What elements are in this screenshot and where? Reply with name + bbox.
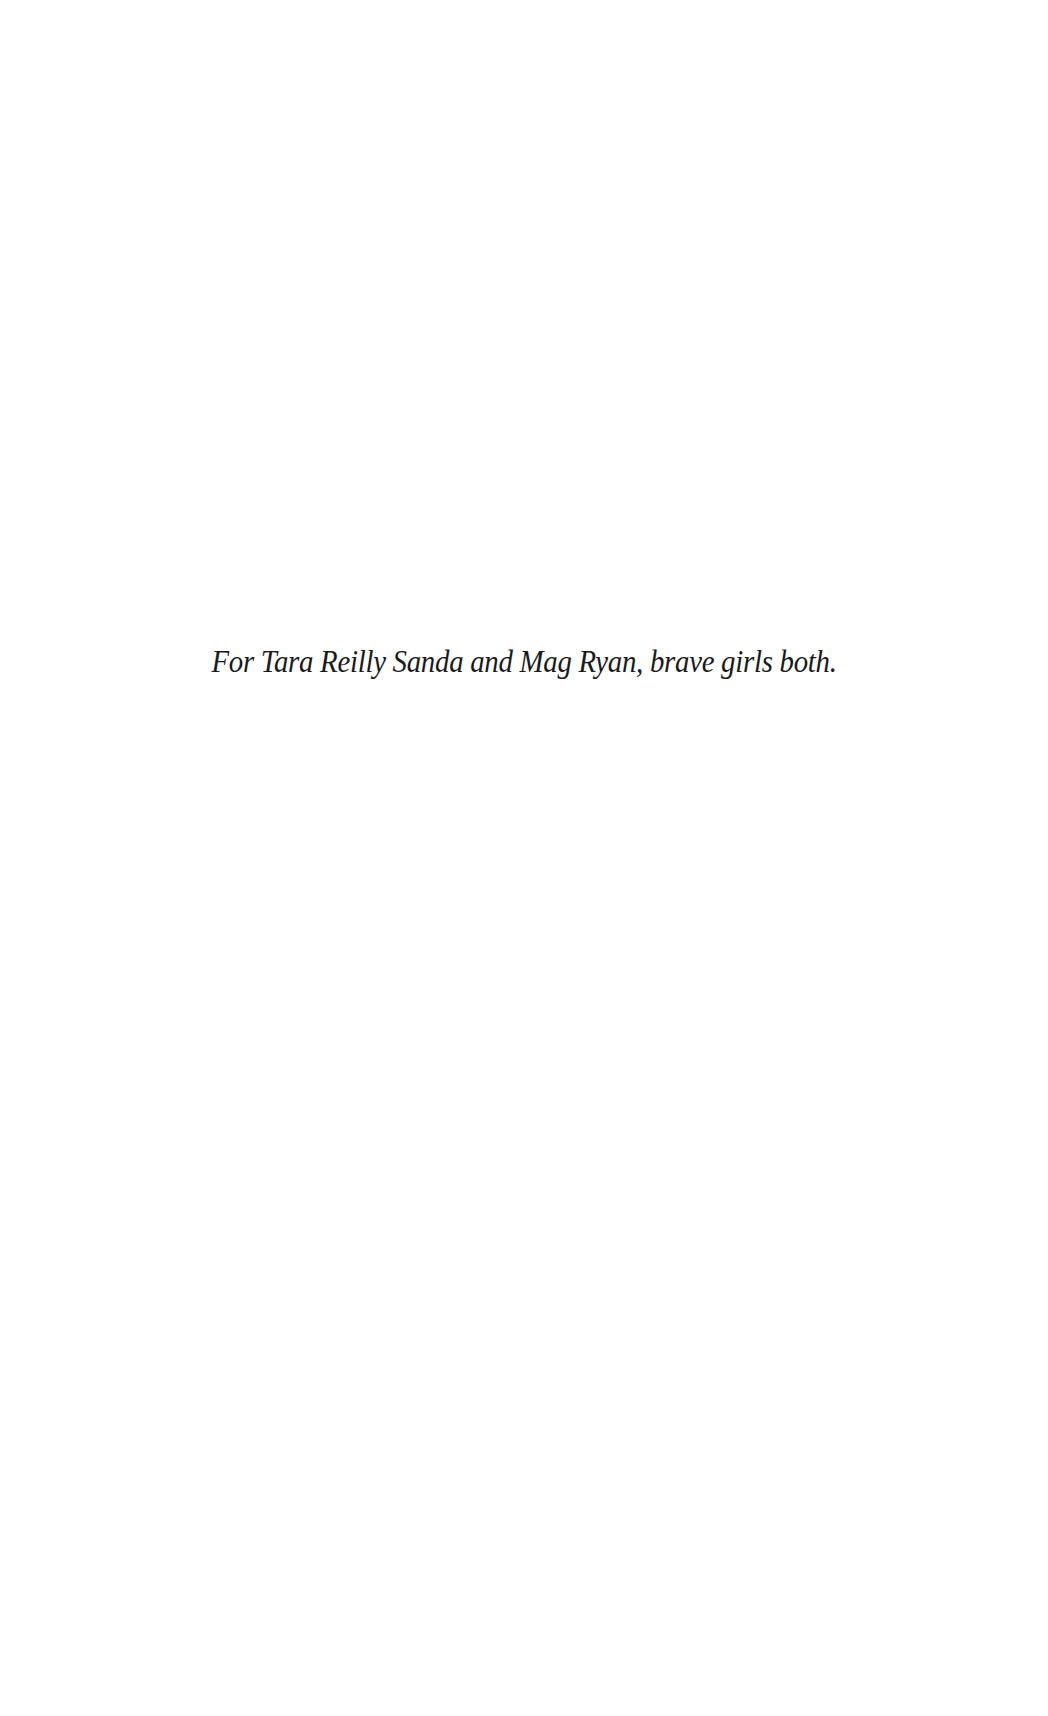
book-page: For Tara Reilly Sanda and Mag Ryan, brav… [0, 0, 1048, 1716]
dedication-text: For Tara Reilly Sanda and Mag Ryan, brav… [0, 640, 1048, 684]
dedication-line: For Tara Reilly Sanda and Mag Ryan, brav… [211, 640, 836, 684]
